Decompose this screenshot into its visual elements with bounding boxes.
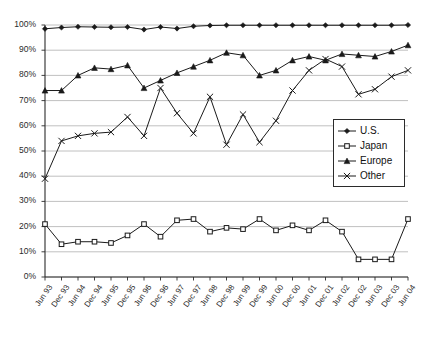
- y-axis-tick-label: 20%: [2, 222, 36, 231]
- y-axis-tick-label: 50%: [2, 146, 36, 155]
- y-axis-tick-label: 60%: [2, 121, 36, 130]
- legend-item-europe[interactable]: Europe: [337, 153, 399, 168]
- line-chart: 0%10%20%30%40%50%60%70%80%90%100% Jun 93…: [0, 0, 427, 340]
- diamond-marker-icon: [337, 125, 357, 137]
- square-marker-icon: [337, 140, 357, 152]
- legend-item-japan[interactable]: Japan: [337, 138, 399, 153]
- legend-label: Japan: [360, 141, 387, 151]
- legend-label: U.S.: [360, 126, 379, 136]
- y-axis-tick-label: 0%: [2, 272, 36, 281]
- legend-item-us[interactable]: U.S.: [337, 123, 399, 138]
- y-axis-tick-label: 100%: [2, 20, 36, 29]
- chart-legend: U.S.JapanEuropeOther: [333, 119, 405, 187]
- y-axis-tick-label: 10%: [2, 247, 36, 256]
- y-axis-tick-label: 30%: [2, 196, 36, 205]
- legend-label: Other: [360, 171, 385, 181]
- y-axis-tick-label: 70%: [2, 96, 36, 105]
- y-axis-tick-label: 90%: [2, 45, 36, 54]
- triangle-marker-icon: [337, 155, 357, 167]
- y-axis-tick-label: 80%: [2, 70, 36, 79]
- cross-marker-icon: [337, 170, 357, 182]
- legend-label: Europe: [360, 156, 392, 166]
- legend-item-other[interactable]: Other: [337, 168, 399, 183]
- y-axis-tick-label: 40%: [2, 171, 36, 180]
